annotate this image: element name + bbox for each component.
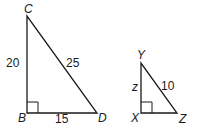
vertex-label-z: Z (178, 112, 187, 126)
similar-triangles-diagram: C B D 20 25 15 Y X Z z 10 (0, 0, 197, 130)
side-label-cb: 20 (6, 56, 20, 70)
side-label-cd: 25 (66, 56, 80, 70)
triangle-yxz: Y X Z z 10 (130, 48, 187, 126)
triangle-cbd: C B D 20 25 15 (6, 2, 107, 126)
right-angle-marker-x (141, 102, 152, 113)
side-label-yz: 10 (161, 79, 175, 93)
vertex-label-c: C (24, 2, 33, 16)
triangle-cbd-outline (27, 16, 97, 113)
side-label-yx: z (131, 80, 138, 94)
vertex-label-y: Y (137, 48, 146, 62)
side-label-bd: 15 (55, 112, 69, 126)
vertex-label-d: D (98, 111, 107, 125)
vertex-label-x: X (130, 111, 140, 125)
vertex-label-b: B (18, 111, 26, 125)
right-angle-marker-b (27, 102, 38, 113)
